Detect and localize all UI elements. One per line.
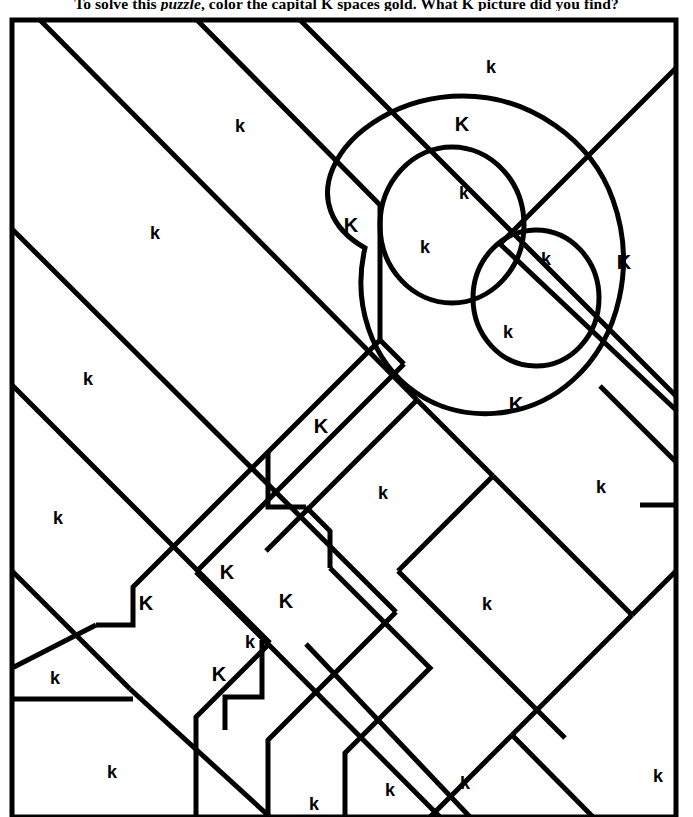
cell-letter-l20[interactable]: k: [482, 594, 493, 614]
cell-letter-l18[interactable]: K: [139, 592, 154, 614]
cell-letter-l02[interactable]: k: [235, 116, 246, 136]
cell-letter-l19[interactable]: K: [279, 590, 294, 612]
cell-letter-l21[interactable]: k: [245, 632, 256, 652]
cell-letter-l26[interactable]: k: [385, 780, 396, 800]
cell-letter-l12[interactable]: K: [509, 393, 524, 415]
cell-letter-l11[interactable]: k: [503, 322, 514, 342]
cell-letter-l10[interactable]: k: [83, 369, 94, 389]
puzzle-page: To solve this puzzle, color the capital …: [0, 0, 693, 817]
cell-letter-l14[interactable]: k: [53, 508, 64, 528]
cell-letter-l22[interactable]: k: [50, 668, 61, 688]
cell-letter-l01[interactable]: k: [486, 57, 497, 77]
cell-letter-l25[interactable]: k: [309, 794, 320, 814]
cell-letter-l28[interactable]: k: [653, 766, 664, 786]
cell-letter-l15[interactable]: K: [220, 561, 235, 583]
cell-letter-l03[interactable]: K: [455, 113, 470, 135]
cell-letter-l16[interactable]: k: [378, 483, 389, 503]
cell-letter-l06[interactable]: k: [150, 223, 161, 243]
cell-letter-l08[interactable]: k: [541, 249, 552, 269]
cell-letter-l27[interactable]: k: [460, 773, 471, 793]
cell-letter-l23[interactable]: K: [212, 663, 227, 685]
cell-letter-l24[interactable]: k: [107, 762, 118, 782]
cell-letter-l05[interactable]: K: [344, 214, 359, 236]
cell-letter-l07[interactable]: k: [420, 237, 431, 257]
cell-letter-l17[interactable]: k: [596, 477, 607, 497]
cell-letter-l04[interactable]: k: [459, 183, 470, 203]
cell-letter-l13[interactable]: K: [314, 415, 329, 437]
cell-letter-l09[interactable]: K: [617, 251, 632, 273]
puzzle-canvas[interactable]: kkKkKkkkKkkKKkKkkKKkkkKkkkkk: [0, 0, 693, 817]
